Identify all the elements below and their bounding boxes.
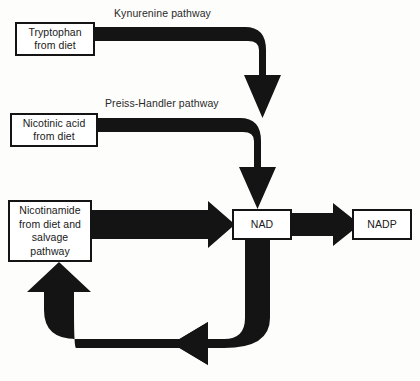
node-nadp-label: NADP bbox=[354, 218, 410, 232]
node-tryptophan: Tryptophan from diet bbox=[15, 22, 95, 56]
pathway-diagram: Tryptophan from diet Nicotinic acid from… bbox=[0, 0, 420, 381]
node-tryptophan-label: Tryptophan from diet bbox=[17, 26, 93, 53]
node-nad: NAD bbox=[232, 209, 292, 240]
node-nadp: NADP bbox=[352, 209, 412, 240]
arrow-nicotinic-to-nad bbox=[96, 118, 276, 209]
arrow-nicotinamide-to-nad bbox=[90, 201, 235, 248]
node-nicotinic-acid: Nicotinic acid from diet bbox=[10, 113, 98, 147]
node-nicotinamide: Nicotinamide from diet and salvage pathw… bbox=[8, 200, 92, 262]
pathway-label-kynurenine: Kynurenine pathway bbox=[114, 7, 211, 20]
flow-arrows-layer bbox=[0, 0, 420, 381]
node-nicotinamide-label: Nicotinamide from diet and salvage pathw… bbox=[10, 204, 90, 258]
pathway-label-preiss-handler: Preiss-Handler pathway bbox=[105, 97, 219, 110]
arrow-loop-rise-to-nicotinamide bbox=[27, 262, 180, 348]
node-nicotinic-acid-label: Nicotinic acid from diet bbox=[12, 117, 96, 144]
arrow-nad-to-nadp bbox=[292, 203, 360, 246]
node-nad-label: NAD bbox=[234, 218, 290, 232]
